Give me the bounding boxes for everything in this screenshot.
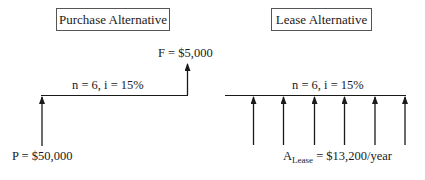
cash-flow-diagrams [0,0,425,180]
lease-timeline [225,96,406,146]
purchase-timeline [41,64,188,146]
